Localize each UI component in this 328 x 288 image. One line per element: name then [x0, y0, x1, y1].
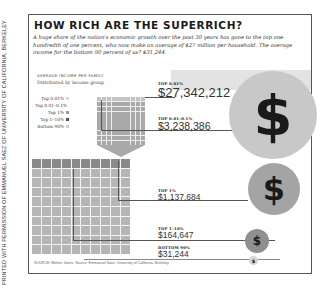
- legend-item: Top 0.01–0.1%: [37, 102, 69, 109]
- legend-item: Top 0.01%: [37, 95, 69, 102]
- circle-top-1: $: [248, 163, 300, 215]
- legend-item: Bottom 90%: [37, 123, 69, 130]
- value-top-1: TOP 1% $1,137,684: [158, 188, 201, 202]
- chart-label: AVERAGE INCOME PER FAMILY: [37, 73, 104, 78]
- legend-swatch: [66, 111, 69, 114]
- dollar-icon: $: [263, 170, 285, 208]
- connector-line: [118, 161, 119, 200]
- value-top-1-10: TOP 1–10% $164,647: [158, 226, 193, 240]
- legend-swatch: [66, 125, 69, 128]
- connector-line: [73, 169, 74, 240]
- value-bottom-90: BOTTOM 90% $31,244: [158, 245, 190, 259]
- legend-swatch: [66, 118, 69, 121]
- subtitle: A huge share of the nation's economic gr…: [33, 34, 309, 57]
- top-percent-grid: [97, 97, 145, 145]
- circle-bottom-90: $: [249, 256, 258, 265]
- funnel-connector: [97, 145, 145, 157]
- dollar-icon: $: [252, 258, 255, 264]
- legend-item: Top 1–10%: [37, 116, 69, 123]
- legend: Top 0.01% Top 0.01–0.1% Top 1% Top 1–10%…: [37, 95, 69, 130]
- chart-sublabel: Distributed by income group: [37, 80, 104, 85]
- value-top-001-01: TOP 0.01–0.1% $3,238,386: [158, 116, 211, 132]
- connector-line: [101, 100, 102, 130]
- legend-swatch: [66, 97, 69, 100]
- dollar-icon: $: [254, 83, 293, 148]
- dollar-icon: $: [253, 234, 261, 248]
- source-note: SOURCE: Mother Jones; Source: Emmanuel S…: [34, 261, 169, 265]
- page-title: HOW RICH ARE THE SUPERRICH?: [34, 19, 243, 31]
- circle-top-1-10: $: [245, 229, 269, 253]
- infographic-frame: HOW RICH ARE THE SUPERRICH? A huge share…: [28, 14, 312, 274]
- photo-credit: PRINTED WITH PERMISSION OF EMMANUEL SAEZ…: [1, 45, 7, 285]
- circle-top-001: $: [229, 71, 317, 159]
- legend-item: Top 1%: [37, 109, 69, 116]
- value-top-001: TOP 0.01% $27,342,212: [158, 81, 230, 99]
